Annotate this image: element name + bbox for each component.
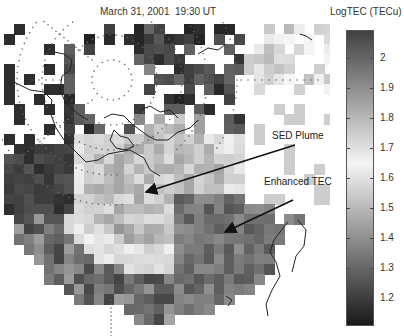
colorbar-tick — [370, 178, 373, 179]
figure-title: March 31, 2001 19:30 UT — [100, 6, 216, 17]
colorbar-tick-label: 1.2 — [380, 292, 394, 303]
colorbar-tick-label: 1.9 — [380, 82, 394, 93]
colorbar-tick — [370, 298, 373, 299]
colorbar-tick — [347, 238, 350, 239]
colorbar-tick — [370, 208, 373, 209]
colorbar-tick — [347, 178, 350, 179]
colorbar-tick-label: 2 — [380, 52, 386, 63]
colorbar-tick-label: 1.5 — [380, 202, 394, 213]
annotation-sed-plume: SED Plume — [272, 130, 324, 141]
colorbar-tick-label: 1.7 — [380, 142, 394, 153]
colorbar-tick — [370, 58, 373, 59]
tec-data-cells — [4, 24, 330, 325]
colorbar-tick-label: 1.4 — [380, 232, 394, 243]
colorbar-tick — [347, 148, 350, 149]
colorbar-tick — [347, 88, 350, 89]
colorbar-tick — [347, 268, 350, 269]
colorbar-tick — [370, 268, 373, 269]
colorbar-tick — [347, 58, 350, 59]
colorbar-tick — [347, 298, 350, 299]
colorbar-tick — [370, 118, 373, 119]
colorbar-tick — [370, 148, 373, 149]
colorbar-tick — [347, 118, 350, 119]
colorbar-tick — [347, 208, 350, 209]
colorbar-tick — [370, 238, 373, 239]
colorbar-tick — [370, 88, 373, 89]
colorbar-title: LogTEC (TECu) — [330, 6, 402, 17]
annotation-enhanced-tec: Enhanced TEC — [264, 176, 332, 187]
colorbar-tick-label: 1.6 — [380, 172, 394, 183]
colorbar-tick-label: 1.3 — [380, 262, 394, 273]
colorbar-tick-label: 1.8 — [380, 112, 394, 123]
